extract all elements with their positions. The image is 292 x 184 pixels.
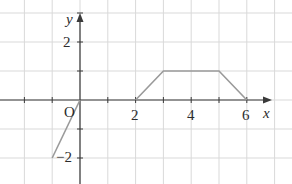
- x-axis-label: x: [262, 105, 270, 121]
- y-axis-label: y: [64, 11, 73, 27]
- grid: [0, 0, 292, 184]
- y-tick-label-2: 2: [63, 34, 71, 50]
- y-tick-label-neg2: −2: [56, 149, 72, 165]
- x-tick-label-2: 2: [131, 107, 139, 123]
- y-axis-arrow-icon: [77, 13, 84, 22]
- plotted-lines: [52, 71, 247, 158]
- function-graph: y x O 2 4 6 2 −2: [0, 0, 292, 184]
- x-axis-arrow-icon: [263, 97, 272, 104]
- origin-label: O: [64, 104, 75, 120]
- x-tick-label-6: 6: [242, 107, 250, 123]
- x-tick-label-4: 4: [187, 107, 195, 123]
